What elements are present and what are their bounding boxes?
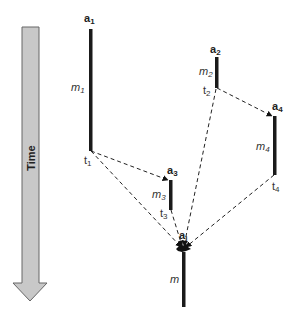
agent-ai-label: ai [179,230,187,243]
message-m4-label: m4 [256,141,270,154]
agent-a1-bar [89,29,93,151]
agent-a1-label: a1 [84,13,95,26]
agent-a3-bar [169,180,173,210]
time-t3-label: t3 [160,208,168,221]
edge-t1-a3 [91,151,168,180]
agent-a3-label: a3 [167,165,178,178]
agent-a4-bar [273,116,277,175]
time-axis-label: Time [25,143,37,173]
message-m1-label: m1 [71,82,85,95]
time-t2-label: t2 [203,85,211,98]
message-m3-label: m3 [152,189,166,202]
message-m2-label: m2 [199,66,213,79]
edge-t4-ai [186,175,274,247]
time-t1-label: t1 [84,155,92,168]
agent-ai-bar [182,252,186,307]
time-t4-label: t4 [272,181,280,194]
agent-a4-label: a4 [272,101,283,114]
edge-t2-a4 [217,88,272,116]
diagram-svg [0,0,299,322]
message-m-label: m [170,274,179,285]
agent-a2-label: a2 [210,44,221,57]
diagram-canvas: Time a1 a2 a3 a4 ai m1 m2 m3 m4 m t1 t2 … [0,0,299,322]
edge-t2-ai [184,89,216,246]
agent-a2-bar [215,57,219,88]
